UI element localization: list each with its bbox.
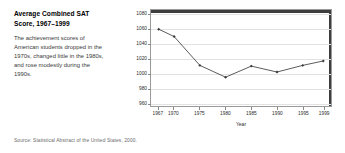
data-line-series bbox=[151, 10, 331, 106]
x-axis-tick-mark bbox=[173, 107, 174, 110]
source-note: Source: Statistical Abstract of the Unit… bbox=[14, 138, 137, 143]
x-axis-tick-label: 1970 bbox=[168, 111, 179, 116]
y-axis-tick-label: 1040 bbox=[136, 40, 147, 45]
x-axis-tick-label: 1980 bbox=[220, 111, 231, 116]
data-point-marker bbox=[157, 28, 160, 31]
chart-plot-area: Combined SAT Score 108010601040102010009… bbox=[113, 9, 335, 131]
data-point-marker bbox=[322, 59, 325, 62]
y-axis-tick-mark bbox=[148, 14, 151, 15]
y-axis-tick-mark bbox=[148, 74, 151, 75]
data-point-marker bbox=[224, 76, 227, 79]
y-axis-tick-labels: 10801060104010201000980960 bbox=[127, 9, 147, 107]
y-axis-tick-mark bbox=[148, 59, 151, 60]
chart-frame bbox=[150, 9, 332, 107]
y-axis-tick-mark bbox=[148, 29, 151, 30]
figure-title: Average Combined SAT Score, 1967–1999 bbox=[14, 9, 108, 28]
y-axis-tick-label: 980 bbox=[139, 86, 147, 91]
x-axis-tick-label: 1975 bbox=[194, 111, 205, 116]
data-point-marker bbox=[276, 71, 279, 74]
x-axis-tick-mark bbox=[277, 107, 278, 110]
data-point-marker bbox=[301, 64, 304, 67]
x-axis-tick-mark bbox=[303, 107, 304, 110]
y-axis-tick-mark bbox=[148, 104, 151, 105]
x-axis-tick-mark bbox=[225, 107, 226, 110]
figure-description: The achievement scores of American stude… bbox=[14, 34, 108, 79]
y-axis-tick-label: 1020 bbox=[136, 56, 147, 61]
x-axis-tick-label: 1967 bbox=[152, 111, 163, 116]
caption-column: Average Combined SAT Score, 1967–1999 Th… bbox=[14, 9, 108, 79]
y-axis-tick-label: 1080 bbox=[136, 10, 147, 15]
x-axis-tick-labels: 19671970197519801985199019951999 bbox=[150, 107, 332, 121]
x-axis-tick-mark bbox=[158, 107, 159, 110]
y-axis-tick-mark bbox=[148, 89, 151, 90]
x-axis-tick-mark bbox=[324, 107, 325, 110]
x-axis-tick-label: 1995 bbox=[298, 111, 309, 116]
data-point-marker bbox=[250, 65, 253, 68]
y-axis-tick-label: 1060 bbox=[136, 25, 147, 30]
x-axis-tick-label: 1990 bbox=[272, 111, 283, 116]
x-axis-tick-mark bbox=[251, 107, 252, 110]
x-axis-tick-label: 1999 bbox=[319, 111, 330, 116]
x-axis-tick-mark bbox=[199, 107, 200, 110]
x-axis-tick-label: 1985 bbox=[246, 111, 257, 116]
y-axis-tick-label: 1000 bbox=[136, 71, 147, 76]
y-axis-tick-mark bbox=[148, 44, 151, 45]
figure-container: Average Combined SAT Score, 1967–1999 Th… bbox=[0, 0, 345, 153]
y-axis-tick-label: 960 bbox=[139, 101, 147, 106]
x-axis-title: Year bbox=[150, 121, 332, 127]
